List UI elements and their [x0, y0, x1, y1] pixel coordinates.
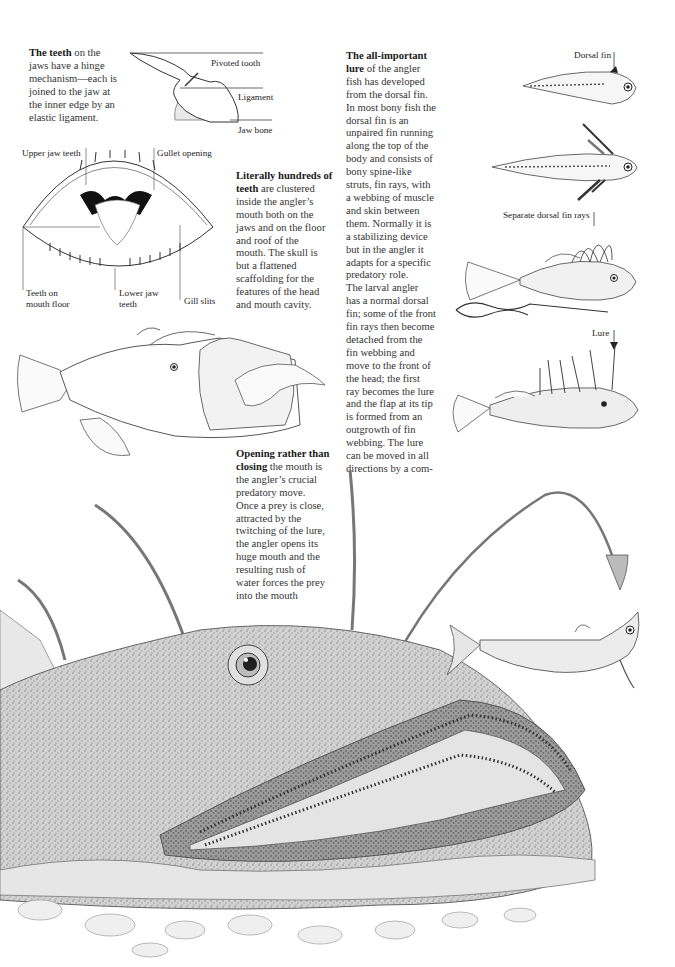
prey-fish — [0, 0, 675, 967]
